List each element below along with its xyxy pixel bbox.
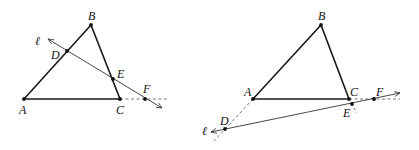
left-label-f: F <box>142 82 151 96</box>
right-label-b: B <box>318 9 326 23</box>
left-label-c: C <box>116 103 125 117</box>
right-label-f: F <box>375 85 384 99</box>
right-point-b <box>319 23 323 27</box>
left-point-d <box>65 49 69 53</box>
diagram-canvas: A B C D E F ℓ A B C D E F ℓ <box>0 0 419 150</box>
right-label-d: D <box>219 114 229 128</box>
left-point-c <box>118 97 122 101</box>
right-label-e: E <box>342 106 351 120</box>
left-label-e: E <box>116 67 125 81</box>
right-point-e <box>350 102 354 106</box>
right-label-line-l: ℓ <box>202 124 207 138</box>
left-point-b <box>89 23 93 27</box>
left-label-line-l: ℓ <box>35 34 40 48</box>
left-label-d: D <box>50 48 60 62</box>
right-label-a: A <box>243 85 252 99</box>
left-point-a <box>22 97 26 101</box>
left-label-b: B <box>88 9 96 23</box>
left-point-e <box>111 77 115 81</box>
left-figure: A B C D E F ℓ <box>18 9 167 117</box>
right-figure: A B C D E F ℓ <box>202 9 400 141</box>
left-point-f <box>143 97 147 101</box>
right-label-c: C <box>350 85 359 99</box>
right-point-a <box>251 97 255 101</box>
right-triangle-abc <box>253 25 349 99</box>
left-label-a: A <box>18 103 27 117</box>
